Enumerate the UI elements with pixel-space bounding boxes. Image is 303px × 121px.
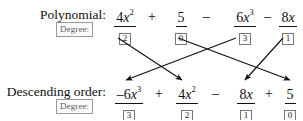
polynomial-term-3-degree-box: 3 — [239, 33, 251, 46]
polynomial-term-4-expression: 8x — [279, 11, 296, 27]
descending-operator-3: + — [265, 87, 273, 101]
descending-term-1: –6x3 3 — [108, 85, 150, 120]
polynomial-term-2-degree-box: 0 — [175, 33, 187, 46]
descending-term-3-variable: x — [246, 87, 252, 102]
descending-term-1-degree-box: 3 — [123, 110, 135, 121]
descending-term-4-degree-box: 0 — [284, 110, 296, 121]
descending-term-1-exponent: 3 — [137, 84, 141, 94]
polynomial-term-1-expression: 4x2 — [114, 11, 135, 27]
descending-term-4: 5 0 — [279, 85, 301, 120]
descending-order-row-label: Descending order: — [0, 85, 106, 99]
descending-term-2-exponent: 2 — [191, 84, 195, 94]
descending-term-1-coefficient: –6 — [117, 87, 131, 102]
polynomial-term-2-coefficient: 5 — [178, 10, 185, 25]
polynomial-operator-1: + — [148, 10, 156, 24]
polynomial-descending-order-diagram: Polynomial: Degree: 4x2 2 + 5 0 – 6x3 3 … — [0, 0, 303, 120]
polynomial-term-2: 5 0 — [170, 8, 192, 45]
descending-order-degree-chip: Degree: — [56, 99, 93, 114]
polynomial-operator-3: – — [264, 10, 271, 24]
polynomial-term-3-expression: 6x3 — [234, 11, 255, 27]
polynomial-term-1-exponent: 2 — [129, 7, 133, 17]
polynomial-term-1-degree-box: 2 — [119, 33, 131, 46]
polynomial-term-2-expression: 5 — [176, 11, 187, 27]
polynomial-term-3: 6x3 3 — [228, 8, 262, 45]
descending-operator-1: + — [155, 87, 163, 101]
descending-term-4-expression: 5 — [285, 88, 296, 104]
descending-term-3: 8x 1 — [232, 85, 260, 120]
descending-term-4-coefficient: 5 — [287, 87, 294, 102]
polynomial-row-label: Polynomial: — [0, 8, 106, 22]
descending-term-1-expression: –6x3 — [115, 88, 143, 104]
polynomial-term-1: 4x2 2 — [108, 8, 142, 45]
descending-term-3-expression: 8x — [237, 88, 254, 104]
polynomial-term-4-degree-box: 1 — [282, 33, 294, 46]
descending-term-2-degree-box: 2 — [181, 110, 193, 121]
descending-term-2: 4x2 2 — [170, 85, 204, 120]
polynomial-term-4: 8x 1 — [274, 8, 302, 45]
polynomial-operator-2: – — [203, 10, 210, 24]
descending-term-2-expression: 4x2 — [176, 88, 197, 104]
descending-operator-2: – — [212, 87, 219, 101]
polynomial-term-4-variable: x — [288, 10, 294, 25]
polynomial-term-3-exponent: 3 — [249, 7, 253, 17]
polynomial-degree-chip: Degree: — [56, 22, 93, 37]
descending-term-3-degree-box: 1 — [240, 110, 252, 121]
